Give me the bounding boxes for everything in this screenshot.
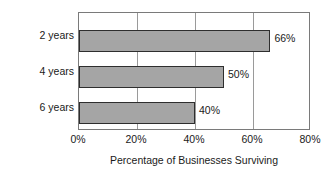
x-axis-title: Percentage of Businesses Surviving [78,154,310,166]
bar-chart: Years since Being Started 2 years 4 year… [0,0,334,177]
y-tick-label-0: 2 years [24,28,74,42]
x-tick-label-2: 40% [174,133,214,145]
x-tick-label-4: 80% [290,133,330,145]
data-label-2-years: 66% [274,31,295,45]
x-tick-label-1: 20% [116,133,156,145]
data-label-6-years: 40% [199,103,220,117]
plot-area [78,12,310,130]
y-tick-label-2: 6 years [24,100,74,114]
x-tick-label-3: 60% [232,133,272,145]
y-tick-label-1: 4 years [24,64,74,78]
bar-2-years [79,30,270,52]
x-tick-label-0: 0% [58,133,98,145]
data-label-4-years: 50% [228,67,249,81]
bar-6-years [79,102,195,124]
bar-4-years [79,66,224,88]
